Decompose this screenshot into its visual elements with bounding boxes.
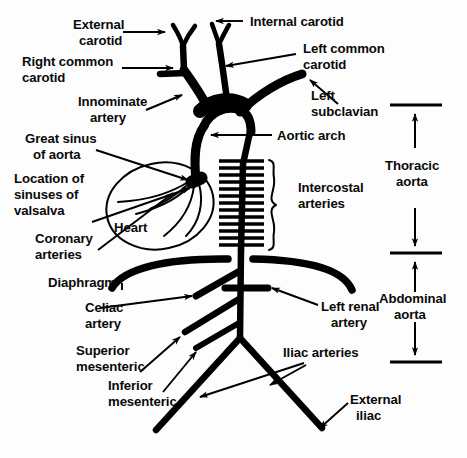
label-iliac-arteries: Iliac arteries	[283, 345, 359, 360]
label-superior-mesenteric-line2: mesenteric	[76, 359, 145, 374]
label-thoracic-aorta-line2: aorta	[396, 174, 429, 189]
label-abdominal-aorta-line2: aorta	[394, 307, 427, 322]
external-carotid	[173, 25, 183, 46]
label-great-sinus-line2: of aorta	[33, 147, 81, 162]
left-subclavian-artery	[240, 74, 302, 112]
leader-left-renal-artery	[272, 288, 318, 305]
aorta-extent-scale	[390, 105, 442, 362]
label-sinuses-valsalva-line1: Location of	[14, 171, 85, 186]
aorta-diagram: Heart	[0, 0, 467, 458]
label-celiac-line1: Celiac	[85, 300, 123, 315]
intercostal-brace	[269, 160, 276, 250]
aortic-root-bulb	[192, 178, 201, 182]
internal-carotid	[212, 24, 219, 44]
label-sinuses-valsalva-line2: sinuses of	[14, 187, 79, 202]
label-inferior-mesenteric-line1: Inferior	[108, 378, 153, 393]
label-celiac-line2: artery	[85, 316, 122, 331]
leader-left-common-carotid	[226, 54, 296, 66]
leader-superior-mesenteric	[140, 337, 180, 372]
celiac-artery	[196, 272, 238, 296]
label-inferior-mesenteric-line2: mesenteric	[108, 394, 177, 409]
label-sinuses-valsalva-line3: valsalva	[14, 203, 65, 218]
label-left-renal-line1: Left renal	[321, 299, 379, 314]
label-intercostal-line1: Intercostal	[298, 180, 364, 195]
label-external-carotid-line2: carotid	[79, 33, 122, 48]
label-aortic-arch: Aortic arch	[277, 128, 346, 143]
heart-figure: Heart	[98, 153, 222, 260]
diagram-canvas: Heart	[0, 0, 467, 458]
label-left-common-carotid-line1: Left common	[303, 41, 385, 56]
label-coronary-line2: arteries	[35, 247, 82, 262]
label-left-common-carotid-line2: carotid	[303, 57, 346, 72]
right-subclavian	[160, 73, 186, 74]
label-internal-carotid: Internal carotid	[250, 14, 344, 29]
label-abdominal-aorta-line1: Abdominal	[379, 291, 446, 306]
label-external-carotid-line1: External	[73, 17, 124, 32]
internal-carotid-branch	[219, 25, 229, 44]
label-great-sinus-line1: Great sinus	[25, 131, 96, 146]
right-common-carotid	[183, 46, 184, 70]
intercostal-arteries-group	[219, 161, 264, 245]
label-left-subclavian-line1: Left	[311, 88, 335, 103]
label-coronary-line1: Coronary	[35, 231, 94, 246]
label-innominate-line1: Innominate	[78, 94, 147, 109]
right-carotid-branch	[183, 26, 195, 46]
leader-inferior-mesenteric	[163, 352, 196, 392]
leader-external-iliac	[320, 403, 348, 428]
label-left-subclavian-line2: subclavian	[311, 104, 378, 119]
label-left-renal-line2: artery	[331, 315, 368, 330]
coronary-artery-line	[164, 186, 194, 236]
label-thoracic-aorta-line1: Thoracic	[385, 158, 439, 173]
label-innominate-line2: artery	[90, 110, 127, 125]
label-diaphragm: Diaphragm	[48, 275, 116, 290]
leader-great-sinus	[96, 150, 188, 180]
label-right-common-carotid-line1: Right common	[22, 54, 113, 69]
leader-innominate	[146, 95, 182, 110]
label-superior-mesenteric-line1: Superior	[76, 343, 129, 358]
label-external-iliac-line1: External	[350, 392, 401, 407]
label-right-common-carotid-line2: carotid	[22, 70, 65, 85]
label-intercostal-line2: arteries	[298, 196, 345, 211]
heart-label: Heart	[114, 220, 148, 235]
label-external-iliac-line2: iliac	[356, 408, 381, 423]
